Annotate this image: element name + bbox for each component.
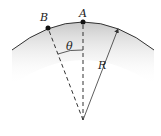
label-r: R bbox=[97, 59, 106, 72]
point-b-dot bbox=[46, 26, 51, 31]
point-a-dot bbox=[81, 20, 86, 25]
label-theta: θ bbox=[66, 40, 73, 53]
earth-curvature-diagram: A B θ R bbox=[0, 0, 161, 136]
label-a: A bbox=[78, 7, 87, 20]
label-b: B bbox=[39, 11, 48, 24]
